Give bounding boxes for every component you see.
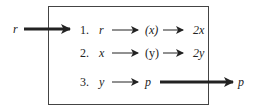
step-2-result: 2y (193, 47, 204, 59)
step-1-number: 1. (80, 24, 89, 36)
step-3-result: p (145, 76, 151, 88)
step-3-input: y (99, 76, 104, 88)
step-2-middle: (y) (145, 47, 159, 59)
step-1-middle: (x) (145, 24, 158, 36)
arrows-layer (0, 0, 258, 111)
output-label: p (238, 76, 244, 88)
step-2-input: x (99, 47, 104, 59)
step-3-number: 3. (80, 76, 89, 88)
step-2-number: 2. (80, 47, 89, 59)
step-1-input: r (99, 24, 104, 36)
input-label: r (13, 23, 18, 35)
step-1-result: 2x (193, 24, 204, 36)
